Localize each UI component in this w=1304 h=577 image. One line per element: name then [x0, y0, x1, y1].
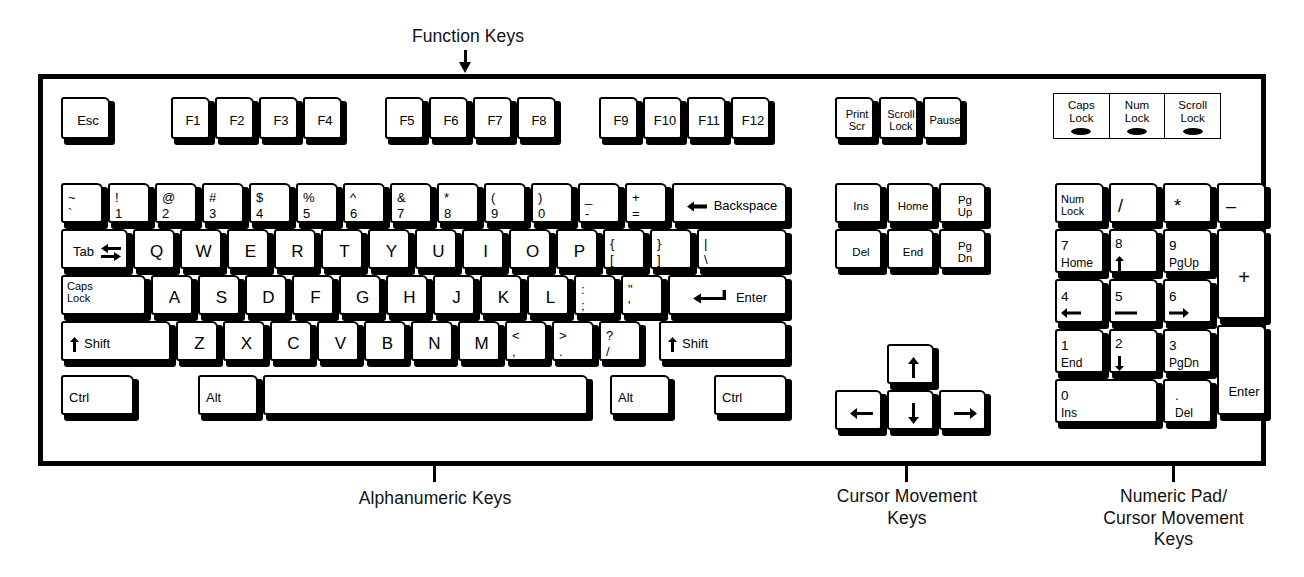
f10-key[interactable]: F10	[643, 97, 687, 145]
caps-lock-key[interactable]: Caps Lock	[61, 275, 151, 321]
w-key[interactable]: W	[180, 229, 227, 275]
d-key[interactable]: D	[245, 275, 292, 321]
numpad-divide-key[interactable]: /	[1109, 183, 1163, 229]
f5-key[interactable]: F5	[385, 97, 429, 145]
numpad-9-key[interactable]: 9PgUp	[1163, 229, 1217, 279]
numpad-7-key[interactable]: 7Home	[1055, 229, 1109, 279]
numpad-enter-key[interactable]: Enter	[1217, 325, 1271, 421]
enter-key[interactable]: Enter	[668, 275, 792, 321]
m-key[interactable]: M	[458, 321, 505, 367]
slash-key[interactable]: ?/	[599, 321, 646, 367]
numpad-3-key[interactable]: 3PgDn	[1163, 329, 1217, 379]
numpad-4-key[interactable]: 4	[1055, 279, 1109, 329]
f2-key[interactable]: F2	[215, 97, 259, 145]
escape-key[interactable]: Esc	[61, 97, 115, 145]
shift-right-key[interactable]: Shift	[659, 321, 792, 367]
arrow-right-key[interactable]	[939, 390, 991, 436]
delete-key[interactable]: Del	[835, 229, 887, 275]
pause-key[interactable]: Pause	[923, 97, 967, 145]
x-key[interactable]: X	[223, 321, 270, 367]
alt-left-key[interactable]: Alt	[198, 375, 263, 421]
bracket-left-key[interactable]: {[	[603, 229, 650, 275]
numpad-add-key[interactable]: +	[1217, 229, 1271, 325]
seven-key[interactable]: &7	[390, 183, 437, 229]
numpad-2-key[interactable]: 2	[1109, 329, 1163, 379]
z-key[interactable]: Z	[176, 321, 223, 367]
r-key[interactable]: R	[274, 229, 321, 275]
s-key[interactable]: S	[198, 275, 245, 321]
l-key[interactable]: L	[527, 275, 574, 321]
nine-key[interactable]: (9	[484, 183, 531, 229]
backslash-key[interactable]: |\	[697, 229, 792, 275]
f9-key[interactable]: F9	[599, 97, 643, 145]
six-key[interactable]: ^6	[343, 183, 390, 229]
f-key[interactable]: F	[292, 275, 339, 321]
v-key[interactable]: V	[317, 321, 364, 367]
numpad-1-key[interactable]: 1End	[1055, 329, 1109, 379]
tab-key[interactable]: Tab	[61, 229, 133, 275]
backspace-key[interactable]: Backspace	[672, 183, 792, 229]
one-key[interactable]: !1	[108, 183, 155, 229]
a-key[interactable]: A	[151, 275, 198, 321]
arrow-down-key[interactable]	[887, 390, 939, 436]
comma-key[interactable]: <,	[505, 321, 552, 367]
arrow-left-key[interactable]	[835, 390, 887, 436]
end-key[interactable]: End	[887, 229, 939, 275]
print-screen-key[interactable]: Print Scr	[835, 97, 879, 145]
zero-key[interactable]: )0	[531, 183, 578, 229]
num-lock-key[interactable]: Num Lock	[1055, 183, 1109, 229]
j-key[interactable]: J	[433, 275, 480, 321]
home-key[interactable]: Home	[887, 183, 939, 229]
numpad-6-key[interactable]: 6	[1163, 279, 1217, 329]
b-key[interactable]: B	[364, 321, 411, 367]
n-key[interactable]: N	[411, 321, 458, 367]
y-key[interactable]: Y	[368, 229, 415, 275]
numpad-8-key[interactable]: 8	[1109, 229, 1163, 279]
g-key[interactable]: G	[339, 275, 386, 321]
i-key[interactable]: I	[462, 229, 509, 275]
four-key[interactable]: $4	[249, 183, 296, 229]
arrow-up-key[interactable]	[887, 344, 939, 390]
alt-right-key[interactable]: Alt	[610, 375, 675, 421]
f4-key[interactable]: F4	[303, 97, 347, 145]
ctrl-left-key[interactable]: Ctrl	[61, 375, 139, 421]
eight-key[interactable]: *8	[437, 183, 484, 229]
page-up-key[interactable]: Pg Up	[939, 183, 991, 229]
page-down-key[interactable]: Pg Dn	[939, 229, 991, 275]
two-key[interactable]: @2	[155, 183, 202, 229]
e-key[interactable]: E	[227, 229, 274, 275]
period-key[interactable]: >.	[552, 321, 599, 367]
five-key[interactable]: %5	[296, 183, 343, 229]
tilde-key[interactable]: ~`	[61, 183, 108, 229]
t-key[interactable]: T	[321, 229, 368, 275]
f12-key[interactable]: F12	[731, 97, 775, 145]
numpad-decimal-key[interactable]: .Del	[1163, 379, 1217, 429]
space-key[interactable]	[263, 375, 593, 421]
ctrl-right-key[interactable]: Ctrl	[714, 375, 792, 421]
quote-key[interactable]: "'	[621, 275, 668, 321]
equals-key[interactable]: +=	[625, 183, 672, 229]
c-key[interactable]: C	[270, 321, 317, 367]
three-key[interactable]: #3	[202, 183, 249, 229]
numpad-multiply-key[interactable]: *	[1163, 183, 1217, 229]
numpad-subtract-key[interactable]: –	[1217, 183, 1271, 229]
u-key[interactable]: U	[415, 229, 462, 275]
insert-key[interactable]: Ins	[835, 183, 887, 229]
bracket-right-key[interactable]: }]	[650, 229, 697, 275]
numpad-0-key[interactable]: 0Ins	[1055, 379, 1163, 429]
numpad-5-key[interactable]: 5	[1109, 279, 1163, 329]
scroll-lock-key[interactable]: Scroll Lock	[879, 97, 923, 145]
f11-key[interactable]: F11	[687, 97, 731, 145]
shift-left-key[interactable]: Shift	[61, 321, 176, 367]
p-key[interactable]: P	[556, 229, 603, 275]
h-key[interactable]: H	[386, 275, 433, 321]
k-key[interactable]: K	[480, 275, 527, 321]
f8-key[interactable]: F8	[517, 97, 561, 145]
f1-key[interactable]: F1	[171, 97, 215, 145]
f3-key[interactable]: F3	[259, 97, 303, 145]
minus-key[interactable]: _-	[578, 183, 625, 229]
f7-key[interactable]: F7	[473, 97, 517, 145]
f6-key[interactable]: F6	[429, 97, 473, 145]
q-key[interactable]: Q	[133, 229, 180, 275]
o-key[interactable]: O	[509, 229, 556, 275]
